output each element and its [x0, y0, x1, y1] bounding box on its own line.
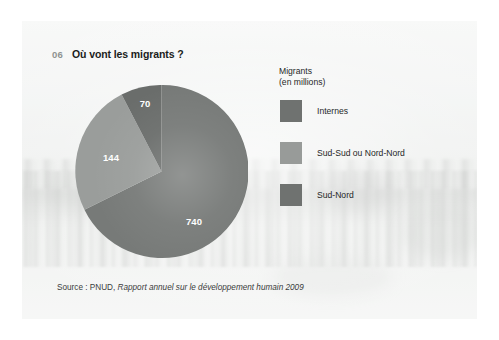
- legend-swatch-sud-sud-nord-nord: [280, 142, 302, 164]
- page-title: 06Où vont les migrants ?: [52, 47, 184, 62]
- legend-title-line1: Migrants: [279, 66, 312, 76]
- pie-chart-svg: 740 144 70: [75, 85, 248, 258]
- pie-label-internes: 740: [186, 216, 202, 227]
- figure-root: 06Où vont les migrants ? 740 144 70: [0, 0, 499, 340]
- legend-swatch-sud-nord: [280, 184, 302, 206]
- pie-label-sud-nord: 70: [140, 98, 151, 109]
- legend-label-sud-nord: Sud-Nord: [317, 190, 354, 200]
- legend-swatch-internes: [280, 100, 302, 122]
- legend-item-internes: Internes: [279, 100, 449, 142]
- legend-title: Migrants (en millions): [279, 66, 449, 89]
- legend: Migrants (en millions) Internes Sud-Sud …: [279, 66, 449, 226]
- legend-label-sud-sud-nord-nord: Sud-Sud ou Nord-Nord: [317, 148, 405, 158]
- figure-title-text: Où vont les migrants ?: [72, 48, 184, 60]
- legend-title-line2: (en millions): [279, 77, 325, 87]
- legend-label-internes: Internes: [317, 106, 348, 116]
- legend-item-sud-sud-nord-nord: Sud-Sud ou Nord-Nord: [279, 142, 449, 184]
- pie-chart: 740 144 70: [75, 85, 248, 258]
- source-prefix: Source : PNUD,: [57, 283, 115, 292]
- legend-item-sud-nord: Sud-Nord: [279, 184, 449, 226]
- pie-label-sud-sud-nord-nord: 144: [103, 152, 120, 163]
- source-note: Source : PNUD, Rapport annuel sur le dév…: [57, 283, 304, 292]
- source-reference: Rapport annuel sur le développement huma…: [118, 283, 304, 292]
- figure-number: 06: [52, 49, 63, 60]
- pie-highlight: [75, 85, 248, 258]
